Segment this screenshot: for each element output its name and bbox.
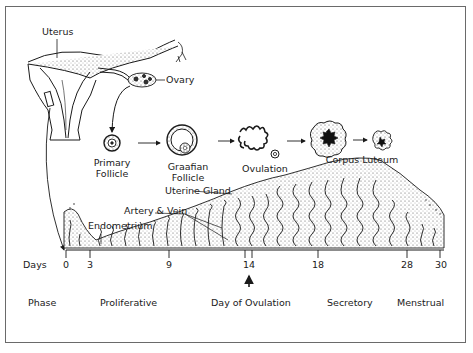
ovary-to-follicle-arrow [112,86,130,132]
label-ovulation: Ovulation [242,163,288,174]
label-graafian-follicle-line2: Follicle [168,172,209,183]
primary-follicle-icon [104,135,120,151]
day-tick-0: 0 [63,259,69,270]
corpus-albicans-icon [373,131,392,150]
corpus-luteum-icon [310,121,346,157]
label-endometrium: Endometrium [88,220,153,231]
graafian-follicle-icon [167,125,197,155]
label-artery-vein: Artery & Vein [124,205,187,216]
day-tick-28: 28 [401,259,413,270]
label-primary-follicle-line1: Primary [94,157,131,168]
label-corpus-luteum: Corpus Luteum [326,154,398,165]
day-tick-14: 14 [243,259,255,270]
uterus-illustration [28,40,186,140]
uterus-to-endometrium-arrow [46,108,64,250]
days-axis-ticks [66,250,440,258]
label-ovary: Ovary [166,74,194,85]
label-primary-follicle-line2: Follicle [94,168,131,179]
phase-row-label: Phase [28,297,56,308]
phase-menstrual: Menstrual [397,297,444,308]
day-tick-3: 3 [87,259,93,270]
ovary-illustration [128,73,156,87]
day-tick-18: 18 [312,259,324,270]
label-uterine-gland: Uterine Gland [165,185,231,196]
label-primary-follicle: Primary Follicle [94,157,131,179]
phase-proliferative: Proliferative [100,297,157,308]
label-uterus: Uterus [42,26,73,37]
label-graafian-follicle: Graafian Follicle [168,161,209,183]
ovulation-icon [239,126,279,158]
phase-day-of-ovulation: Day of Ovulation [211,297,291,308]
phase-secretory: Secretory [327,297,373,308]
label-graafian-follicle-line1: Graafian [168,161,209,172]
days-axis-label: Days [23,259,47,270]
day-tick-30: 30 [435,259,447,270]
day-tick-9: 9 [166,259,172,270]
